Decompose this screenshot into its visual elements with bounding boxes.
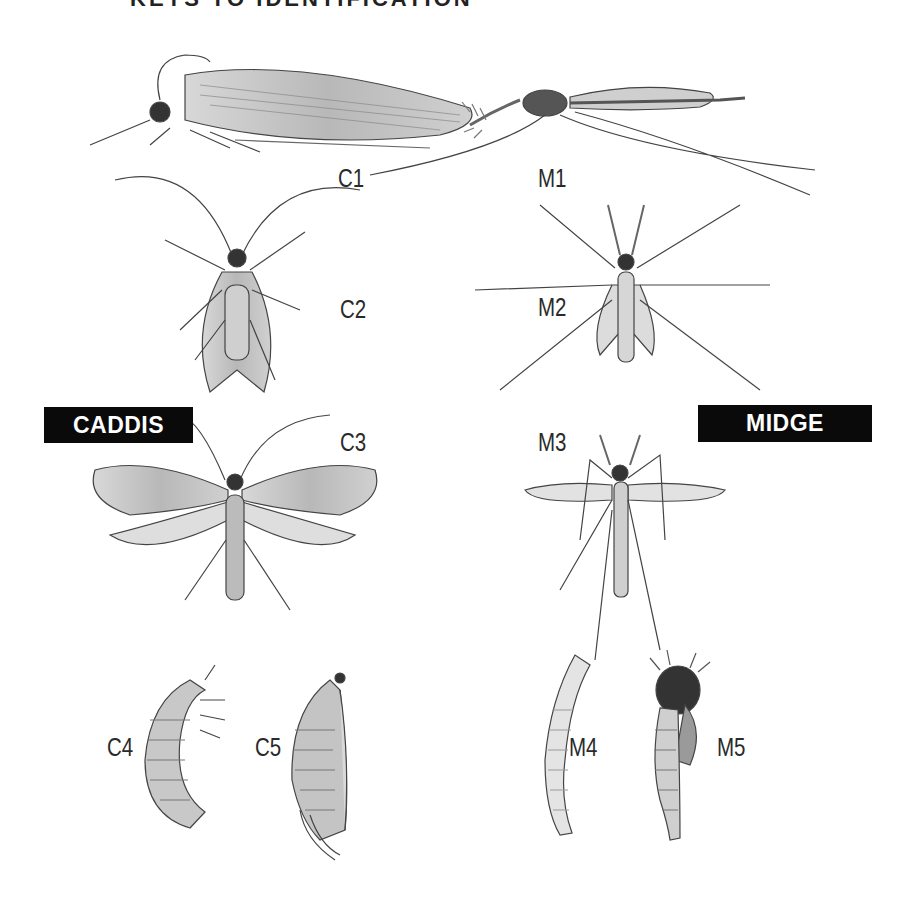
label-c3: C3 (340, 428, 366, 457)
midge-group-tag: MIDGE (698, 405, 872, 442)
label-m3: M3 (538, 428, 566, 457)
figure-c1-caddis-adult-side (90, 55, 472, 152)
figure-c3-caddis-adult-spread (93, 415, 377, 610)
label-m5: M5 (717, 733, 745, 762)
label-c1: C1 (338, 164, 364, 193)
label-c2: C2 (340, 295, 366, 324)
label-m2: M2 (538, 293, 566, 322)
caddis-group-tag: CADDIS (44, 407, 193, 443)
figure-m2-midge-adult-dorsal (475, 205, 770, 390)
figure-c2-caddis-adult-dorsal (115, 177, 360, 392)
figure-m5-midge-pupa (650, 650, 710, 840)
label-m4: M4 (569, 733, 597, 762)
figure-m3-midge-adult-spread (525, 435, 725, 660)
figure-c4-caddis-larva (145, 665, 225, 828)
insect-illustrations (0, 0, 916, 909)
label-c4: C4 (107, 733, 133, 762)
figure-c5-caddis-pupa (292, 673, 347, 860)
label-m1: M1 (538, 164, 566, 193)
label-c5: C5 (255, 733, 281, 762)
